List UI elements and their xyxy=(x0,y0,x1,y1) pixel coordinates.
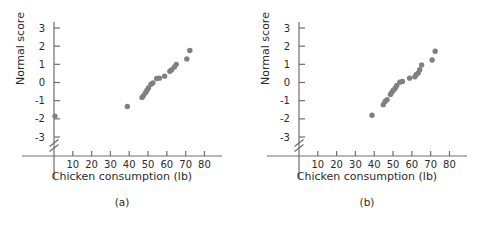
x-tick-label: 20 xyxy=(330,159,343,170)
data-point xyxy=(369,113,374,118)
y-tick-label: 2 xyxy=(39,41,45,52)
data-point xyxy=(187,48,192,53)
x-tick-label: 70 xyxy=(424,159,437,170)
y-tick-label: 1 xyxy=(39,59,45,70)
y-tick-label: 0 xyxy=(284,77,290,88)
y-tick-label: 2 xyxy=(284,41,290,52)
x-tick-label: 60 xyxy=(405,159,418,170)
y-tick-label: -2 xyxy=(280,113,290,124)
y-tick-label: 0 xyxy=(39,77,45,88)
x-tick-label: 60 xyxy=(160,159,173,170)
x-tick-label: 20 xyxy=(85,159,98,170)
y-axis-title-a: Normal score xyxy=(14,0,27,105)
x-tick-label: 30 xyxy=(349,159,362,170)
x-tick-label: 40 xyxy=(123,159,136,170)
data-point xyxy=(150,80,155,85)
data-point xyxy=(125,104,130,109)
y-tick-label: -2 xyxy=(35,113,45,124)
y-axis-title-b: Normal score xyxy=(259,0,272,105)
data-point xyxy=(162,73,167,78)
panel-a: -3-2-101231020304050607080 Normal score … xyxy=(0,0,244,228)
x-tick-label: 10 xyxy=(311,159,324,170)
data-point xyxy=(400,79,405,84)
data-point xyxy=(174,62,179,67)
x-tick-label: 50 xyxy=(142,159,155,170)
data-point xyxy=(384,97,389,102)
x-tick-label: 80 xyxy=(443,159,456,170)
y-tick-label: 3 xyxy=(39,23,45,34)
data-point xyxy=(184,56,189,61)
y-tick-label: -3 xyxy=(35,132,45,143)
data-point xyxy=(52,113,57,118)
x-tick-label: 50 xyxy=(387,159,400,170)
data-point xyxy=(407,75,412,80)
x-tick-label: 10 xyxy=(66,159,79,170)
figure-two-normal-probability-plots: -3-2-101231020304050607080 Normal score … xyxy=(0,0,489,228)
x-tick-label: 30 xyxy=(104,159,117,170)
x-tick-label: 70 xyxy=(179,159,192,170)
scatter-plot-a: -3-2-101231020304050607080 xyxy=(0,0,244,228)
data-point xyxy=(157,75,162,80)
scatter-plot-b: -3-2-101231020304050607080 xyxy=(245,0,489,228)
y-tick-label: -3 xyxy=(280,132,290,143)
x-tick-label: 40 xyxy=(368,159,381,170)
y-tick-label: 3 xyxy=(284,23,290,34)
panel-b: -3-2-101231020304050607080 Normal score … xyxy=(245,0,489,228)
panel-caption-b: (b) xyxy=(245,196,489,208)
x-axis-title-a: Chicken consumption (lb) xyxy=(0,170,244,183)
y-tick-label: -1 xyxy=(35,95,45,106)
x-tick-label: 80 xyxy=(198,159,211,170)
data-point xyxy=(417,67,422,72)
panel-caption-a: (a) xyxy=(0,196,244,208)
x-axis-title-b: Chicken consumption (lb) xyxy=(245,170,489,183)
data-point xyxy=(419,62,424,67)
data-point xyxy=(429,57,434,62)
data-point xyxy=(432,49,437,54)
y-tick-label: -1 xyxy=(280,95,290,106)
y-tick-label: 1 xyxy=(284,59,290,70)
